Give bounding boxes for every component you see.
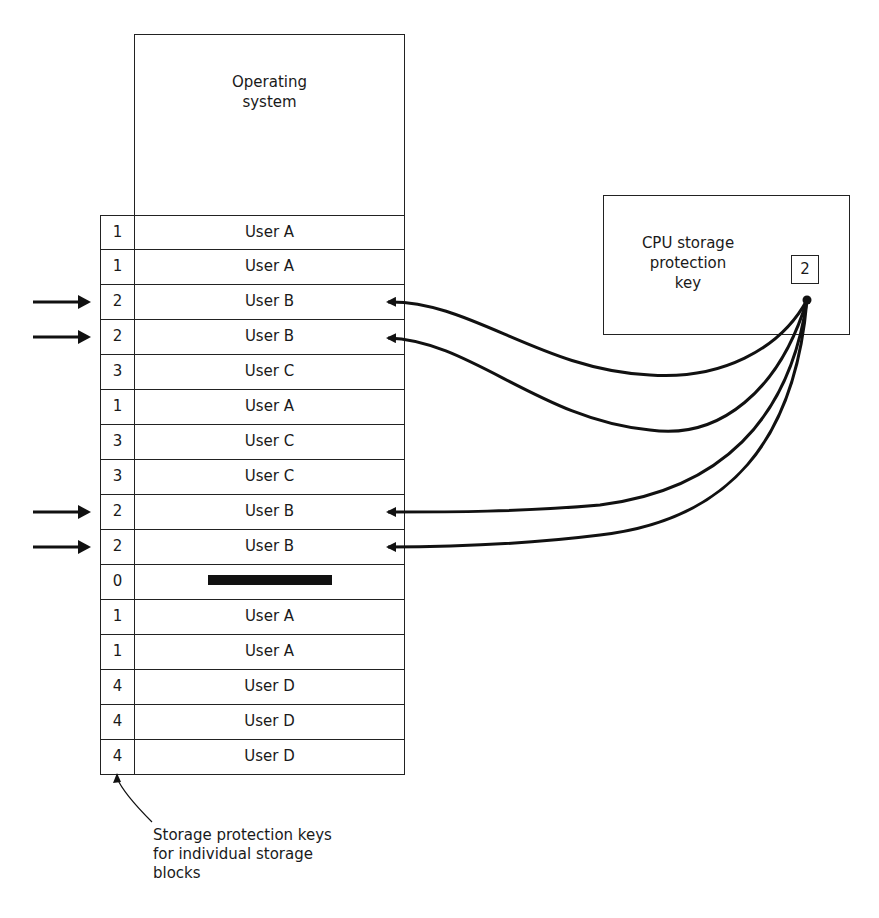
arrowhead-icon <box>78 330 91 344</box>
curve-to-row-9 <box>388 300 807 512</box>
curve-to-row-4 <box>388 300 807 431</box>
cpu-key-source-dot <box>803 296 812 305</box>
arrowhead-icon <box>78 540 91 554</box>
key-match-curves <box>388 300 807 547</box>
caption-pointer-line <box>117 778 152 822</box>
curve-to-row-3 <box>388 300 807 376</box>
curve-to-row-10 <box>388 300 807 547</box>
matching-block-arrows <box>33 295 91 554</box>
arrowhead-icon <box>78 295 91 309</box>
caption-pointer-arrowhead-icon <box>113 773 121 783</box>
connector-overlay <box>0 0 879 918</box>
arrowhead-icon <box>78 505 91 519</box>
